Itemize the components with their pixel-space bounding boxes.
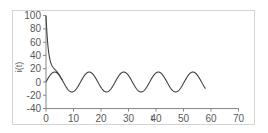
y-axis: 100806040200-20-40 <box>24 10 46 114</box>
x-tick-label: 50 <box>178 113 190 124</box>
y-tick-label: 100 <box>24 10 41 21</box>
x-axis: 010203040506070 <box>43 109 244 124</box>
x-tick-label: 20 <box>95 113 107 124</box>
y-tick-label: 40 <box>30 50 42 61</box>
y-tick-label: 0 <box>35 77 41 88</box>
x-tick-label: 0 <box>43 113 49 124</box>
y-tick-label: 80 <box>30 23 42 34</box>
y-tick-label: -20 <box>27 90 42 101</box>
y-tick-label: -40 <box>27 103 42 114</box>
x-tick-label: 10 <box>68 113 80 124</box>
series-group <box>46 16 206 92</box>
line-chart: 100806040200-20-40 010203040506070 i(t) … <box>0 0 268 133</box>
x-tick-label: 60 <box>205 113 217 124</box>
y-tick-label: 20 <box>30 63 42 74</box>
series-sinusoid-line <box>46 72 206 92</box>
x-tick-label: 30 <box>123 113 135 124</box>
y-axis-title: i(t) <box>14 62 24 73</box>
series-total-response-line <box>46 16 63 81</box>
x-tick-label: 70 <box>233 113 245 124</box>
y-tick-label: 60 <box>30 37 42 48</box>
